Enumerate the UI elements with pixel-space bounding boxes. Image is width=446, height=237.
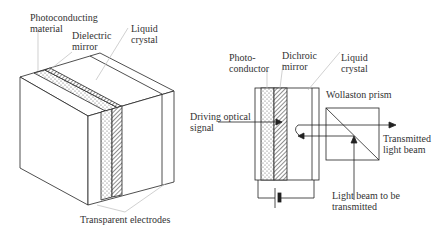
label-photoconductor: Photo- conductor <box>229 52 269 74</box>
label-wollaston-prism: Wollaston prism <box>326 89 392 100</box>
label-transparent-electrodes: Transparent electrodes <box>80 214 170 225</box>
label-driving-optical-signal: Driving optical signal <box>190 111 251 133</box>
label-dielectric-mirror: Dielectric mirror <box>72 30 111 52</box>
label-liquid-crystal-right: Liquid crystal <box>341 52 368 74</box>
label-liquid-crystal-left: Liquid crystal <box>131 23 158 45</box>
label-dichroic-mirror: Dichroic mirror <box>282 50 317 72</box>
label-light-beam-to-be-transmitted: Light beam to be transmitted <box>332 190 400 212</box>
label-transmitted-light-beam: Transmitted light beam <box>383 133 431 155</box>
lc-light-valve-3d <box>20 53 174 205</box>
